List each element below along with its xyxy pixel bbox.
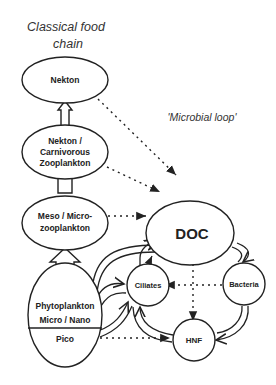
bacteria-to-hnf-arrow-inner bbox=[217, 306, 242, 333]
node-meso-microzooplankton: Meso / Micro- zooplankton bbox=[22, 196, 108, 250]
carnivorous-label-1: Nekton / bbox=[48, 136, 82, 146]
doc-to-bacteria-arrow-inner bbox=[232, 247, 242, 262]
pico-label: Pico bbox=[56, 334, 74, 344]
phyto-to-ciliates-arrow-inner bbox=[99, 293, 126, 310]
node-doc: DOC bbox=[146, 201, 234, 265]
nekton-to-doc-arrow bbox=[98, 99, 176, 175]
node-ciliates: Ciliates bbox=[127, 264, 169, 306]
hnf-label: HNF bbox=[186, 336, 203, 345]
node-carnivorous-zooplankton: Nekton / Carnivorous Zooplankton bbox=[22, 125, 108, 179]
carnivorous-label-3: Zooplankton bbox=[40, 158, 91, 168]
nekton-label: Nekton bbox=[51, 75, 80, 85]
carnivorous-label-2: Carnivorous bbox=[40, 147, 90, 157]
doc-label: DOC bbox=[175, 225, 209, 242]
node-nekton: Nekton bbox=[22, 57, 108, 103]
meso-label-1: Meso / Micro- bbox=[38, 211, 92, 221]
classical-title-line1: Classical food bbox=[27, 20, 106, 34]
microbial-loop-title: 'Microbial loop' bbox=[168, 111, 238, 123]
doc-to-bacteria-arrow bbox=[237, 243, 249, 262]
bacteria-label: Bacteria bbox=[229, 280, 259, 289]
ciliates-label: Ciliates bbox=[135, 281, 162, 290]
phyto-label-1: Phytoplankton bbox=[35, 301, 94, 311]
classical-title-line2: chain bbox=[53, 37, 83, 51]
hnf-to-ciliates-arrow bbox=[140, 307, 173, 335]
node-bacteria: Bacteria bbox=[223, 263, 265, 305]
hnf-to-ciliates-arrow-inner bbox=[133, 307, 172, 342]
node-hnf: HNF bbox=[173, 319, 215, 361]
phyto-label-2: Micro / Nano bbox=[39, 315, 90, 325]
node-phytoplankton: Phytoplankton Micro / Nano Pico bbox=[28, 263, 102, 367]
food-web-diagram: Classical food chain 'Microbial loop' Ne… bbox=[0, 0, 276, 385]
pico-to-ciliates-arrow-inner bbox=[100, 306, 132, 337]
carnivorous-to-doc-arrow bbox=[107, 167, 160, 192]
bacteria-to-hnf-arrow bbox=[216, 306, 248, 340]
carnivorous-to-nekton-arrow bbox=[58, 101, 72, 127]
meso-label-2: zooplankton bbox=[40, 223, 90, 233]
